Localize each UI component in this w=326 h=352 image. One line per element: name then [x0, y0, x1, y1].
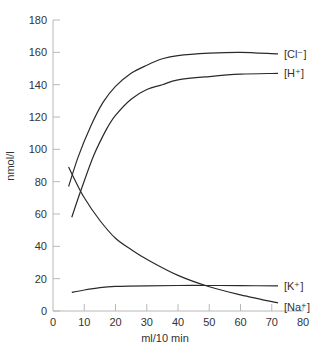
x-axis-label: ml/10 min — [141, 332, 189, 344]
x-tick-label: 0 — [50, 316, 56, 328]
series-line-h — [72, 73, 278, 217]
y-tick-label: 140 — [29, 79, 47, 91]
y-tick-label: 40 — [35, 240, 47, 252]
y-tick-label: 80 — [35, 176, 47, 188]
y-tick-label: 180 — [29, 14, 47, 26]
series-label-na: [Na⁺] — [284, 301, 310, 313]
x-tick-label: 20 — [109, 316, 121, 328]
x-axis: 01020304050607080 — [50, 304, 309, 328]
y-axis: 020406080100120140160180 — [29, 14, 60, 317]
series-label-k: [K⁺] — [284, 280, 303, 292]
series-line-cl — [69, 52, 278, 186]
x-tick-label: 60 — [234, 316, 246, 328]
x-tick-label: 80 — [297, 316, 309, 328]
series-label-h: [H⁺] — [284, 67, 304, 79]
series-labels: [Cl⁻][H⁺][K⁺][Na⁺] — [284, 48, 310, 313]
x-tick-label: 10 — [78, 316, 90, 328]
series-label-cl: [Cl⁻] — [284, 48, 307, 60]
series-group — [69, 52, 278, 303]
y-tick-label: 60 — [35, 208, 47, 220]
series-line-k — [72, 285, 278, 292]
x-tick-label: 70 — [266, 316, 278, 328]
y-tick-label: 160 — [29, 46, 47, 58]
line-chart: 020406080100120140160180 010203040506070… — [0, 0, 326, 352]
y-tick-label: 100 — [29, 143, 47, 155]
x-tick-label: 30 — [141, 316, 153, 328]
y-tick-label: 20 — [35, 273, 47, 285]
x-tick-label: 50 — [203, 316, 215, 328]
series-line-na — [69, 167, 278, 303]
y-tick-label: 120 — [29, 111, 47, 123]
y-tick-label: 0 — [41, 305, 47, 317]
x-tick-label: 40 — [172, 316, 184, 328]
y-axis-label: nmol/l — [4, 151, 16, 180]
